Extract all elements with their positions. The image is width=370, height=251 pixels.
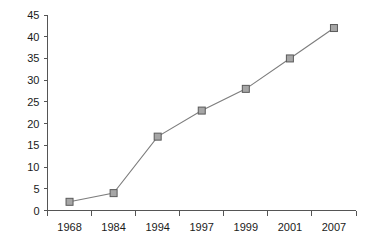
y-tick-label: 35 xyxy=(27,52,39,64)
x-tick-label: 2007 xyxy=(322,221,346,233)
data-point-marker xyxy=(198,107,205,114)
y-tick-label: 20 xyxy=(27,118,39,130)
y-tick-label: 10 xyxy=(27,161,39,173)
y-tick-label: 25 xyxy=(27,96,39,108)
y-tick-label: 15 xyxy=(27,139,39,151)
x-tick-label: 1968 xyxy=(57,221,81,233)
data-point-marker xyxy=(66,198,73,205)
y-tick-label: 40 xyxy=(27,31,39,43)
x-tick-label: 1999 xyxy=(234,221,258,233)
x-tick-label: 2001 xyxy=(278,221,302,233)
chart-canvas: 051015202530354045 196819841994199719992… xyxy=(0,0,370,251)
data-point-marker xyxy=(154,133,161,140)
data-point-marker xyxy=(286,55,293,62)
y-tick-label: 30 xyxy=(27,74,39,86)
chart-background xyxy=(0,0,370,251)
y-tick-label: 0 xyxy=(33,205,39,217)
x-tick-label: 1997 xyxy=(190,221,214,233)
y-tick-label: 5 xyxy=(33,183,39,195)
data-point-marker xyxy=(110,190,117,197)
data-point-marker xyxy=(242,85,249,92)
x-tick-label: 1984 xyxy=(101,221,125,233)
x-tick-label: 1994 xyxy=(145,221,169,233)
y-tick-label: 45 xyxy=(27,9,39,21)
data-point-marker xyxy=(330,25,337,32)
line-chart: 051015202530354045 196819841994199719992… xyxy=(0,0,370,251)
